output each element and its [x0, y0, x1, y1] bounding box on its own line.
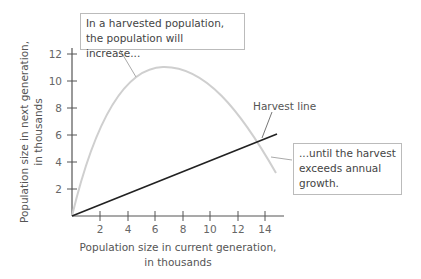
svg-text:12: 12	[231, 223, 244, 235]
top-callout-line1: In a harvested population,	[86, 16, 239, 31]
svg-text:8: 8	[180, 223, 187, 235]
right-callout-line1: ...until the harvest	[299, 146, 396, 161]
y-axis-label: Population size in next generation, in t…	[18, 41, 44, 223]
x-axis-label: Population size in current generation, i…	[80, 241, 277, 268]
harvest-line-label: Harvest line	[253, 100, 316, 112]
harvest-line	[72, 134, 277, 216]
svg-text:14: 14	[258, 223, 272, 235]
svg-text:2: 2	[97, 223, 104, 235]
growth-curve	[72, 67, 276, 216]
svg-text:6: 6	[55, 129, 62, 141]
svg-text:8: 8	[55, 102, 62, 114]
y-tick-labels: 12 10 8 6 4 2	[49, 48, 63, 195]
right-callout: ...until the harvest exceeds annual grow…	[293, 143, 402, 195]
svg-text:4: 4	[55, 156, 62, 168]
right-callout-line2: exceeds annual	[299, 161, 396, 176]
top-callout-line2: the population will increase...	[86, 31, 239, 61]
svg-text:Population size in next genera: Population size in next generation,	[18, 41, 30, 223]
svg-text:2: 2	[55, 183, 62, 195]
svg-text:in thousands: in thousands	[144, 256, 211, 268]
right-callout-leader	[271, 157, 292, 160]
top-callout: In a harvested population, the populatio…	[80, 13, 245, 50]
svg-text:10: 10	[203, 223, 216, 235]
svg-text:in thousands: in thousands	[32, 98, 44, 165]
svg-text:4: 4	[125, 223, 132, 235]
svg-text:10: 10	[49, 75, 62, 87]
svg-text:6: 6	[152, 223, 159, 235]
x-tick-labels: 2 4 6 8 10 12 14	[97, 223, 272, 235]
svg-text:12: 12	[49, 48, 62, 60]
harvest-label-leader	[262, 112, 272, 138]
svg-text:Population size in current gen: Population size in current generation,	[80, 241, 277, 253]
right-callout-line3: growth.	[299, 176, 396, 191]
